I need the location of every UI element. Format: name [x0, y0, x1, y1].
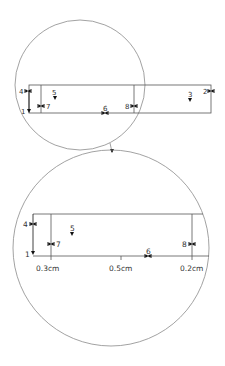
marker-3-label: 3 [188, 91, 192, 99]
marker-5-label: 5 [52, 89, 56, 97]
marker-7[interactable]: 7 [38, 103, 50, 111]
mag-marker-7[interactable]: 7 [48, 240, 61, 249]
marker-6[interactable]: 6 [102, 105, 108, 115]
mag-marker-1[interactable]: 1 [25, 250, 35, 259]
dimension-label-left: 0.3cm [36, 264, 59, 273]
diagram-canvas: 4 1 7 5 6 8 3 2 [0, 0, 225, 366]
marker-1[interactable]: 1 [21, 108, 31, 116]
marker-8-label: 8 [125, 103, 129, 111]
mag-marker-7-label: 7 [56, 240, 61, 249]
connector-arrow-icon [110, 149, 114, 153]
marker-2-label: 2 [203, 88, 207, 96]
mag-marker-6[interactable]: 6 [145, 247, 151, 258]
marker-5[interactable]: 5 [52, 89, 57, 100]
marker-7-label: 7 [46, 103, 50, 111]
magnified-view-circle [13, 150, 209, 346]
arrow-down-icon [53, 96, 57, 100]
marker-3[interactable]: 3 [188, 91, 192, 102]
marker-1-label: 1 [21, 108, 25, 116]
mag-marker-5[interactable]: 5 [70, 224, 75, 236]
arrow-down-icon [70, 232, 74, 236]
mag-marker-8-label: 8 [182, 240, 187, 249]
arrow-down-icon [27, 109, 31, 113]
mag-marker-1-label: 1 [25, 250, 30, 259]
mag-marker-5-label: 5 [70, 224, 75, 233]
mag-marker-6-label: 6 [146, 247, 151, 256]
width-handle-icon [25, 89, 31, 93]
mag-marker-4-label: 4 [23, 220, 28, 229]
mag-marker-8[interactable]: 8 [182, 240, 195, 249]
mag-marker-4[interactable]: 4 [23, 220, 36, 229]
marker-2[interactable]: 2 [203, 88, 214, 96]
arrow-down-icon [188, 98, 192, 102]
magnified-diagram: 4 1 7 5 6 8 0.3cm 0.5cm 0.2cm [13, 150, 209, 346]
marker-4-label: 4 [19, 88, 24, 96]
arrow-down-icon [31, 251, 35, 255]
overview-diagram: 4 1 7 5 6 8 3 2 [15, 20, 214, 150]
marker-8[interactable]: 8 [125, 103, 137, 111]
dimension-label-middle: 0.5cm [109, 264, 132, 273]
dimension-label-right: 0.2cm [180, 264, 203, 273]
